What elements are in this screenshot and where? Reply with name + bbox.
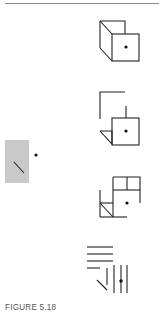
cube-step-4 <box>87 247 127 293</box>
figure-diagram <box>0 0 159 319</box>
reference-glyph <box>14 153 38 173</box>
cube-step-2 <box>100 92 139 145</box>
figure-caption: FIGURE 5.18 <box>5 301 56 312</box>
cube-step-3 <box>100 177 140 217</box>
cube-step-1 <box>100 21 139 61</box>
